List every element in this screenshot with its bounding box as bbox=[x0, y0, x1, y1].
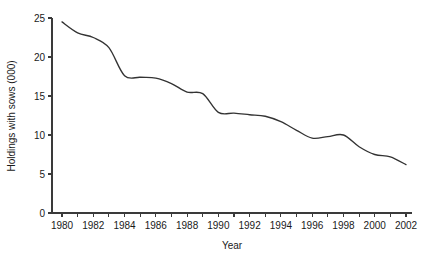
y-axis-tick-labels: 0510152025 bbox=[34, 13, 46, 219]
x-tick-label: 1986 bbox=[145, 220, 168, 231]
x-tick-label: 1980 bbox=[51, 220, 74, 231]
y-tick-label: 25 bbox=[34, 13, 46, 24]
y-axis-title: Holdings with sows (000) bbox=[6, 60, 17, 171]
y-axis-group: 0510152025 bbox=[34, 13, 52, 219]
line-chart-plot: 0510152025 19801982198419861988199019921… bbox=[0, 0, 424, 270]
y-tick-label: 5 bbox=[39, 169, 45, 180]
x-tick-label: 1988 bbox=[176, 220, 199, 231]
x-tick-label: 2000 bbox=[364, 220, 387, 231]
y-tick-label: 0 bbox=[39, 208, 45, 219]
x-tick-label: 1984 bbox=[113, 220, 136, 231]
x-axis-ticks bbox=[62, 213, 406, 217]
x-tick-label: 1998 bbox=[332, 220, 355, 231]
x-tick-label: 1994 bbox=[270, 220, 293, 231]
y-axis-ticks bbox=[48, 18, 52, 213]
chart-container: 0510152025 19801982198419861988199019921… bbox=[0, 0, 424, 270]
data-series-line bbox=[62, 22, 406, 165]
y-tick-label: 20 bbox=[34, 52, 46, 63]
x-tick-label: 2002 bbox=[395, 220, 418, 231]
x-axis-group: 1980198219841986198819901992199419961998… bbox=[51, 213, 418, 231]
x-tick-label: 1996 bbox=[301, 220, 324, 231]
y-tick-label: 15 bbox=[34, 91, 46, 102]
x-tick-label: 1982 bbox=[82, 220, 105, 231]
x-tick-label: 1990 bbox=[207, 220, 230, 231]
x-axis-title: Year bbox=[222, 240, 243, 251]
y-tick-label: 10 bbox=[34, 130, 46, 141]
x-tick-label: 1992 bbox=[239, 220, 262, 231]
x-axis-tick-labels: 1980198219841986198819901992199419961998… bbox=[51, 220, 418, 231]
